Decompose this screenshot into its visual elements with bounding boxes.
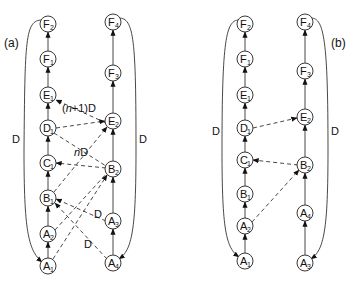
node-F1: F1: [237, 51, 253, 67]
svg-text:2: 2: [115, 121, 119, 128]
svg-text:F: F: [300, 65, 307, 77]
svg-text:3: 3: [307, 263, 311, 270]
node-E1: E1: [40, 87, 56, 103]
svg-text:1: 1: [247, 95, 251, 102]
svg-text:1: 1: [247, 160, 251, 167]
node-F4: F4: [105, 14, 121, 30]
svg-text:4: 4: [115, 263, 119, 270]
panel-b-right-loop: [311, 18, 328, 259]
svg-text:F: F: [300, 16, 307, 28]
panel-a-label-D-upper: D: [94, 208, 102, 220]
node-A3: A3: [105, 213, 121, 229]
node-A2: A2: [237, 218, 253, 234]
node-D1: D1: [237, 120, 253, 136]
svg-text:4: 4: [307, 22, 311, 29]
svg-text:1: 1: [247, 59, 251, 66]
panel-b-left-loop: [222, 20, 239, 257]
node-A3: A3: [297, 255, 313, 271]
panel-b-right-loop-label: D: [331, 125, 339, 137]
svg-text:F: F: [43, 53, 50, 65]
svg-text:3: 3: [115, 221, 119, 228]
svg-text:F: F: [240, 53, 247, 65]
node-C1: C1: [40, 155, 56, 171]
panel-a-label-n1D: (n+1)D: [62, 102, 96, 114]
panel-b: (b) D D F2F1E1D1C1B1A2A1F4F3E2B2A4A3: [212, 14, 346, 271]
node-F1: F1: [40, 51, 56, 67]
svg-text:2: 2: [307, 165, 311, 172]
svg-text:1: 1: [50, 163, 54, 170]
node-F3: F3: [297, 63, 313, 79]
svg-text:2: 2: [307, 117, 311, 124]
node-C1: C1: [237, 152, 253, 168]
node-B1: B1: [40, 190, 56, 206]
svg-text:2: 2: [50, 234, 54, 241]
svg-text:4: 4: [307, 213, 311, 220]
panel-a-nodes: F2F1E1D1C1B1A2A1F4F3E2B2A3A4: [40, 14, 121, 274]
node-B2: B2: [105, 161, 121, 177]
node-B2: B2: [297, 157, 313, 173]
node-F2: F2: [237, 16, 253, 32]
node-E2: E2: [105, 113, 121, 129]
svg-text:2: 2: [50, 24, 54, 31]
node-A1: A1: [237, 253, 253, 269]
panel-a-dashed-edges: [53, 100, 107, 259]
node-B1: B1: [237, 186, 253, 202]
dependency-diagram: (a) D D: [0, 0, 354, 285]
svg-text:1: 1: [50, 95, 54, 102]
svg-text:1: 1: [50, 266, 54, 273]
svg-text:2: 2: [115, 169, 119, 176]
node-F3: F3: [105, 65, 121, 81]
panel-b-nodes: F2F1E1D1C1B1A2A1F4F3E2B2A4A3: [237, 14, 313, 271]
svg-text:F: F: [43, 18, 50, 30]
node-F2: F2: [40, 16, 56, 32]
svg-text:1: 1: [50, 198, 54, 205]
svg-text:3: 3: [307, 71, 311, 78]
node-F4: F4: [297, 14, 313, 30]
panel-b-label: (b): [331, 36, 346, 50]
node-A2: A2: [40, 226, 56, 242]
panel-a-right-loop-label: D: [139, 133, 147, 145]
svg-text:F: F: [108, 16, 115, 28]
node-A1: A1: [40, 258, 56, 274]
node-A4: A4: [105, 255, 121, 271]
svg-text:1: 1: [247, 128, 251, 135]
node-A4: A4: [297, 205, 313, 221]
svg-text:1: 1: [247, 261, 251, 268]
panel-b-dashed-edges: [252, 118, 299, 222]
svg-text:1: 1: [247, 194, 251, 201]
panel-b-left-loop-label: D: [212, 125, 220, 137]
svg-text:3: 3: [115, 73, 119, 80]
svg-text:F: F: [240, 18, 247, 30]
svg-text:1: 1: [50, 59, 54, 66]
svg-text:F: F: [108, 67, 115, 79]
panel-a-label-nD: nD: [74, 146, 88, 158]
svg-text:1: 1: [50, 128, 54, 135]
svg-text:2: 2: [247, 24, 251, 31]
panel-a-left-loop: [24, 20, 42, 262]
panel-a-left-loop-label: D: [12, 133, 20, 145]
node-E2: E2: [297, 109, 313, 125]
panel-a-label: (a): [4, 36, 19, 50]
node-D1: D1: [40, 120, 56, 136]
panel-a: (a) D D: [4, 14, 147, 274]
panel-a-label-D-lower: D: [84, 238, 92, 250]
panel-a-right-loop: [119, 18, 136, 259]
svg-text:2: 2: [247, 226, 251, 233]
node-E1: E1: [237, 87, 253, 103]
svg-text:4: 4: [115, 22, 119, 29]
